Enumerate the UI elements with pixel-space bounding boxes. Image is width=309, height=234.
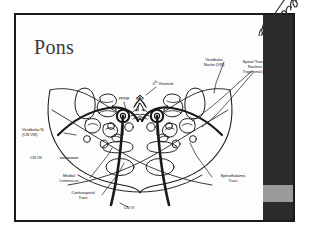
label-cn-vii: CN VII bbox=[30, 155, 56, 160]
label-fourth-ventricle: 4th Ventricle bbox=[140, 81, 186, 86]
label-mlf: MLF bbox=[130, 96, 150, 101]
label-medial-lemniscus-line2: Lemniscus bbox=[59, 178, 78, 183]
slide-canvas: Pons bbox=[16, 15, 293, 220]
label-vestibular-nuclei-viii-line2: Nuclei (VIII) bbox=[204, 62, 225, 67]
label-medial-lemniscus: Medial Lemniscus bbox=[46, 173, 92, 183]
right-accent-bar-bottom bbox=[263, 202, 293, 220]
slide-root: Pons bbox=[0, 0, 309, 234]
label-corticospinal-tract-line2: Tract bbox=[79, 195, 88, 200]
slide-frame: Pons bbox=[14, 13, 295, 222]
label-corticospinal-tract: Corticospinal Tract bbox=[60, 190, 106, 200]
right-accent-bar-top bbox=[263, 15, 293, 185]
label-vestibular-n-cn-viii: Vestibular N. (CN VIII) bbox=[22, 127, 68, 137]
label-vestibular-nuclei-viii: Vestibular Nuclei (VIII) bbox=[194, 57, 234, 67]
label-vestibular-n-line2: (CN VIII) bbox=[22, 132, 37, 137]
label-cn-vi: CN VI bbox=[116, 205, 142, 210]
label-spinothalamic-tract: Spinothalamic Tract bbox=[210, 173, 256, 183]
label-spinothalamic-tract-line2: Tract bbox=[229, 178, 238, 183]
right-accent-bar-gray bbox=[263, 185, 293, 202]
pons-cross-section-diagram bbox=[16, 15, 263, 220]
label-fourth-ventricle-rest: Ventricle bbox=[157, 81, 173, 86]
